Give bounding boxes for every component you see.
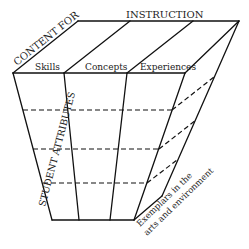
column-label-skills: Skills [35,62,60,72]
bottom-label-exemplars-line2: arts and environment [141,165,215,237]
column-label-experiences: Experiences [140,62,196,72]
instruction-model-diagram: CONTENT FOR INSTRUCTION Skills Concepts … [0,0,249,249]
title-instruction: INSTRUCTION [126,9,204,20]
title-content-for: CONTENT FOR [11,9,81,68]
column-label-concepts: Concepts [85,62,128,72]
